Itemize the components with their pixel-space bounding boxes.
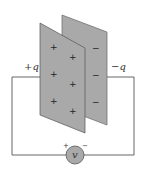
positive-charge-label: +q — [24, 61, 39, 72]
plus-sign: + — [50, 42, 58, 52]
plus-sign: + — [69, 52, 77, 62]
minus-sign: − — [92, 43, 100, 53]
voltmeter: v + − — [63, 142, 88, 164]
plus-sign: + — [69, 106, 77, 116]
negative-signs: − − − — [92, 43, 100, 107]
voltmeter-label: v — [72, 149, 78, 160]
voltmeter-negative-terminal: − — [82, 142, 88, 150]
minus-sign: − — [92, 97, 100, 107]
minus-sign: − — [92, 70, 100, 80]
plus-sign: + — [50, 96, 58, 106]
negative-charge-label: −q — [111, 61, 126, 72]
plus-sign: + — [50, 69, 58, 79]
capacitor-diagram: − − − + + + + + + +q −q v + − — [0, 0, 148, 177]
voltmeter-positive-terminal: + — [63, 142, 69, 150]
plus-sign: + — [69, 79, 77, 89]
